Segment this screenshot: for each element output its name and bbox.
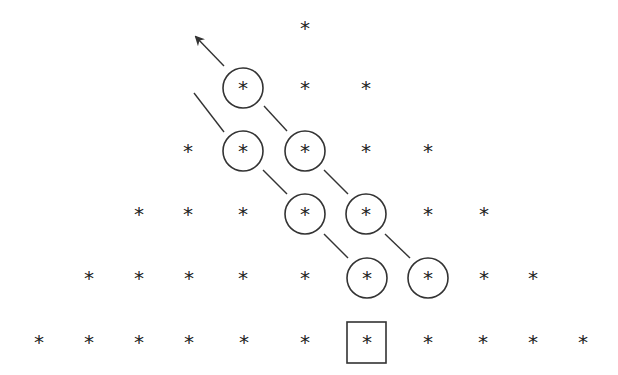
asterisk: * [83,266,95,290]
asterisk: * [360,76,372,100]
dash-line [263,170,287,194]
dash-line [194,93,224,132]
asterisk: * [182,139,194,163]
asterisk: * [299,16,311,40]
asterisk: * [361,266,373,290]
asterisk: * [299,202,311,226]
asterisk: * [299,76,311,100]
asterisk: * [577,330,589,354]
dash-line [324,170,348,194]
asterisk: * [237,76,249,100]
asterisk: * [299,330,311,354]
asterisk: * [238,330,250,354]
asterisk: * [422,202,434,226]
asterisk-triangle-diagram: ************************************ [0,0,618,375]
dash-line [264,106,287,131]
asterisk: * [422,139,434,163]
asterisk: * [183,266,195,290]
dash-line [385,234,410,258]
asterisk: * [133,202,145,226]
asterisk: * [527,266,539,290]
direction-arrow-icon [196,37,224,66]
asterisk: * [299,266,311,290]
asterisk: * [361,330,373,354]
asterisk: * [360,139,372,163]
asterisk: * [477,330,489,354]
asterisk: * [183,330,195,354]
asterisk: * [237,202,249,226]
asterisk: * [478,266,490,290]
asterisk: * [527,330,539,354]
arrow-line [196,37,224,66]
asterisk: * [182,202,194,226]
asterisk: * [237,266,249,290]
asterisk: * [299,139,311,163]
dash-line [324,234,348,258]
asterisk-grid: ************************************ [33,16,589,354]
asterisk: * [237,139,249,163]
asterisk: * [33,330,45,354]
circled-asterisks [223,68,448,298]
asterisk: * [422,266,434,290]
asterisk: * [360,202,372,226]
asterisk: * [422,330,434,354]
asterisk: * [478,202,490,226]
asterisk: * [83,330,95,354]
asterisk: * [133,266,145,290]
asterisk: * [133,330,145,354]
